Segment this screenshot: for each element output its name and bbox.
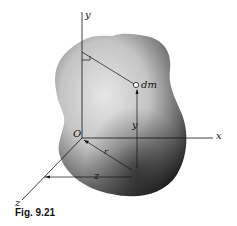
mass-element-icon — [133, 82, 138, 87]
z-distance-label: z — [94, 171, 99, 181]
r-distance-label: r — [104, 148, 108, 156]
y-axis-label: y — [85, 10, 91, 20]
figure-9-21: y x z O dm y r z Fig. 9.21 — [0, 0, 237, 226]
x-axis-label: x — [216, 131, 222, 141]
mass-element-label: dm — [141, 80, 157, 90]
figure-caption: Fig. 9.21 — [15, 207, 55, 218]
origin-label: O — [73, 129, 81, 139]
y-distance-label: y — [132, 120, 138, 130]
rigid-body-diagram — [0, 0, 237, 226]
